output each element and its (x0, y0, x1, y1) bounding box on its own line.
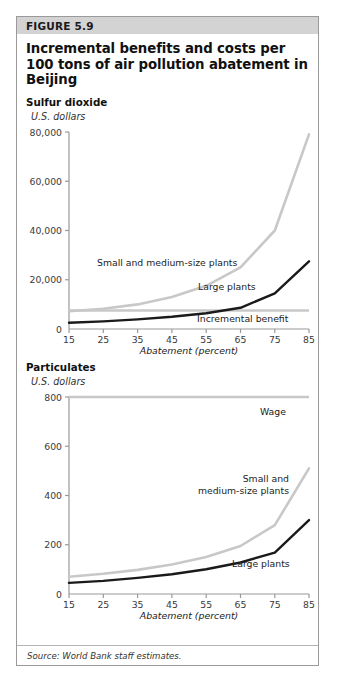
axis-unit-sulfur-dioxide: U.S. dollars (17, 111, 318, 122)
annotation-wage: Wage (260, 406, 286, 417)
annotation-small-medium-plants-1: Small and medium-size plants (97, 257, 237, 268)
x-tick-label-55-1: 55 (200, 334, 212, 345)
figure-header-bar: FIGURE 5.9 (17, 17, 318, 34)
x-tick-label-65-2: 65 (235, 599, 247, 610)
x-tick-label-75-2: 75 (269, 599, 281, 610)
annotation-large-plants-2: Large plants (232, 558, 290, 569)
figure-number-label: FIGURE 5.9 (26, 20, 94, 32)
source-divider (17, 645, 318, 646)
y-tick-label-0-2: 0 (56, 588, 62, 599)
x-tick-label-35-1: 35 (132, 334, 144, 345)
y-tick-label-200: 200 (44, 539, 62, 550)
x-tick-label-85-1: 85 (303, 334, 315, 345)
x-tick-label-15-1: 15 (63, 334, 75, 345)
x-tick-label-45-2: 45 (166, 599, 178, 610)
x-tick-label-85-2: 85 (303, 599, 315, 610)
figure-title: Incremental benefits and costs per 100 t… (17, 34, 318, 88)
y-tick-label-80000: 80,000 (29, 126, 62, 137)
y-tick-label-0: 0 (56, 323, 62, 334)
x-tick-label-45-1: 45 (166, 334, 178, 345)
y-tick-label-20000: 20,000 (29, 274, 62, 285)
y-tick-label-60000: 60,000 (29, 175, 62, 186)
x-axis-title-2: Abatement (percent) (139, 610, 238, 621)
x-tick-label-35-2: 35 (132, 599, 144, 610)
chart-sulfur-dioxide: 80,000 60,000 40,000 20,000 0 15 25 35 (17, 122, 318, 357)
x-tick-label-15-2: 15 (63, 599, 75, 610)
annotation-small-medium-plants-2-line2: medium-size plants (198, 485, 289, 496)
x-axis-title-1: Abatement (percent) (139, 345, 238, 356)
panel-heading-sulfur-dioxide: Sulfur dioxide (17, 96, 318, 108)
source-note: Source: World Bank staff estimates. (27, 651, 182, 661)
x-tick-label-75-1: 75 (269, 334, 281, 345)
annotation-small-medium-plants-2-line1: Small and (243, 473, 289, 484)
figure-container: FIGURE 5.9 Incremental benefits and cost… (16, 16, 319, 666)
x-tick-label-65-1: 65 (235, 334, 247, 345)
chart-particulates: 800 600 400 200 0 15 25 35 45 (17, 387, 318, 622)
y-tick-label-800: 800 (44, 391, 62, 402)
chart-particulates-svg: 800 600 400 200 0 15 25 35 45 (17, 387, 318, 622)
x-tick-label-25-1: 25 (97, 334, 109, 345)
y-tick-label-40000: 40,000 (29, 225, 62, 236)
annotation-incremental-benefit: Incremental benefit (197, 313, 289, 324)
annotation-large-plants-1: Large plants (198, 281, 256, 292)
panel-heading-particulates: Particulates (17, 361, 318, 373)
x-tick-label-55-2: 55 (200, 599, 212, 610)
x-tick-label-25-2: 25 (97, 599, 109, 610)
series-small-medium-plants-1 (69, 134, 309, 311)
y-tick-label-400: 400 (44, 490, 62, 501)
y-tick-label-600: 600 (44, 440, 62, 451)
axis-unit-particulates: U.S. dollars (17, 376, 318, 387)
chart-sulfur-dioxide-svg: 80,000 60,000 40,000 20,000 0 15 25 35 (17, 122, 318, 357)
